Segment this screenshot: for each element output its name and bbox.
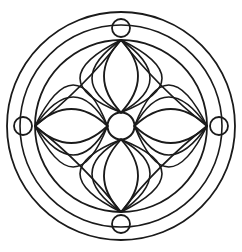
mandala-drawing xyxy=(0,0,242,252)
mandala-canvas xyxy=(0,0,242,252)
